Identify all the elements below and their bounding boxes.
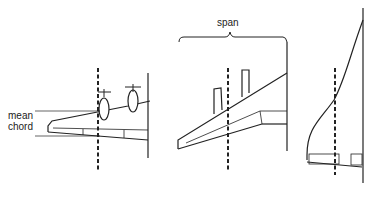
wing-diagrams: mean chord span xyxy=(0,0,370,197)
engine-pod-1 xyxy=(214,88,222,114)
panel-wing-with-propellers xyxy=(35,68,150,172)
panel-swept-wing xyxy=(178,32,287,172)
engine-pod-2 xyxy=(242,70,249,97)
label-span: span xyxy=(217,17,239,28)
label-chord: chord xyxy=(8,121,33,132)
engine-nacelle-2 xyxy=(128,90,138,112)
engine-nacelle-1 xyxy=(99,98,109,120)
elevon-outer xyxy=(351,154,362,165)
span-brace xyxy=(179,32,287,42)
label-mean: mean xyxy=(8,110,33,121)
flap-line xyxy=(53,128,148,130)
swept-trailing-edge xyxy=(178,124,262,149)
swept-flap-line xyxy=(186,111,287,143)
panel-delta-wing xyxy=(307,8,363,183)
